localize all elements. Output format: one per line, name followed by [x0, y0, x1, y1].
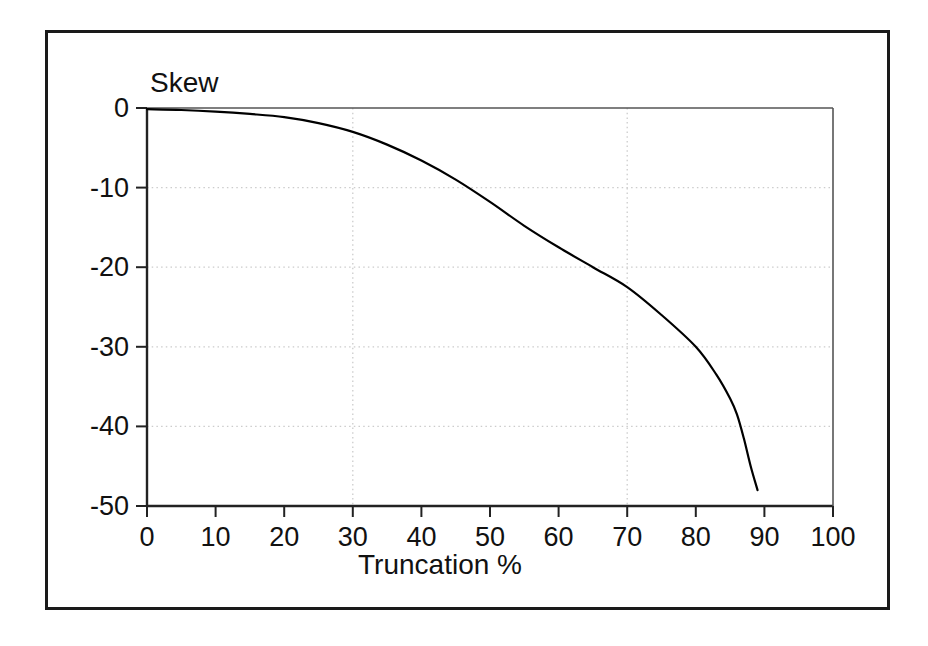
axes [147, 108, 833, 506]
x-tick-label: 60 [544, 522, 574, 552]
y-tick-label: 0 [114, 93, 129, 123]
x-axis-title: Truncation % [358, 549, 522, 580]
x-tick-label: 10 [201, 522, 231, 552]
x-axis-tick-marks [147, 506, 833, 517]
x-tick-label: 30 [338, 522, 368, 552]
x-tick-label: 90 [749, 522, 779, 552]
x-tick-label: 0 [139, 522, 154, 552]
x-axis-tick-labels: 0102030405060708090100 [139, 522, 855, 552]
y-tick-label: -10 [90, 173, 129, 203]
x-tick-label: 80 [681, 522, 711, 552]
y-tick-label: -30 [90, 332, 129, 362]
x-tick-label: 50 [475, 522, 505, 552]
y-tick-label: -40 [90, 411, 129, 441]
skew-vs-truncation-chart: 0-10-20-30-40-50 0102030405060708090100 … [0, 0, 928, 646]
y-axis-tick-marks [136, 108, 147, 506]
y-axis-tick-labels: 0-10-20-30-40-50 [90, 93, 129, 521]
x-tick-label: 70 [612, 522, 642, 552]
x-tick-label: 20 [269, 522, 299, 552]
figure-container: 0-10-20-30-40-50 0102030405060708090100 … [0, 0, 928, 646]
x-tick-label: 40 [406, 522, 436, 552]
skew-curve [147, 109, 758, 490]
y-tick-label: -20 [90, 252, 129, 282]
y-axis-title: Skew [150, 67, 219, 98]
y-tick-label: -50 [90, 491, 129, 521]
gridlines [147, 108, 833, 506]
x-tick-label: 100 [810, 522, 855, 552]
